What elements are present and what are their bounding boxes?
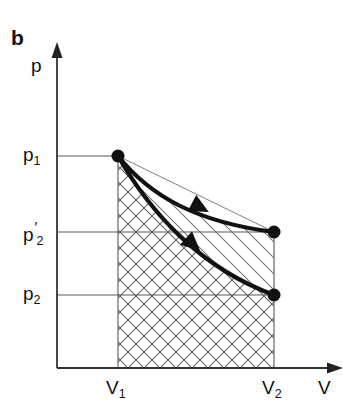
- y-tick-p2prime-base: p: [23, 224, 34, 245]
- diagram-canvas: [0, 0, 352, 418]
- x-axis-label: V: [318, 378, 331, 397]
- pv-diagram-figure: b p V p1 p′2 p2 V1 V2: [0, 0, 352, 418]
- x-tick-v2-sub: 2: [275, 387, 282, 401]
- y-tick-label-p2: p2: [23, 284, 41, 303]
- point-end-lower: [268, 289, 281, 302]
- y-tick-p2prime-sub: 2: [36, 234, 43, 248]
- y-tick-p1-sub: 1: [34, 154, 41, 168]
- x-tick-v1-base: V: [106, 377, 119, 398]
- x-tick-label-v1: V1: [106, 378, 126, 397]
- x-tick-v1-sub: 1: [119, 387, 126, 401]
- y-tick-p1-base: p: [23, 144, 34, 165]
- y-tick-label-p2prime: p′2: [23, 221, 43, 244]
- x-tick-label-v2: V2: [262, 378, 282, 397]
- y-tick-label-p1: p1: [23, 145, 41, 164]
- y-axis-arrowhead: [52, 42, 63, 58]
- y-tick-p2-sub: 2: [34, 293, 41, 307]
- y-axis-label: p: [31, 56, 42, 75]
- y-tick-p2-base: p: [23, 283, 34, 304]
- prime-mark: ′: [35, 218, 38, 235]
- x-tick-v2-base: V: [262, 377, 275, 398]
- point-end-upper: [268, 226, 281, 239]
- x-axis-arrowhead: [327, 363, 343, 374]
- point-start: [112, 150, 125, 163]
- panel-label-b: b: [11, 27, 24, 48]
